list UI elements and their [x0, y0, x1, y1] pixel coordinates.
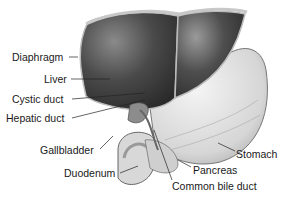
- label-diaphragm: Diaphragm: [12, 51, 63, 63]
- label-hepatic-duct: Hepatic duct: [6, 112, 64, 124]
- liver-left-lobe: [80, 13, 178, 110]
- label-duodenum: Duodenum: [64, 167, 115, 179]
- label-stomach: Stomach: [236, 148, 277, 160]
- label-pancreas: Pancreas: [193, 164, 237, 176]
- label-liver: Liver: [44, 73, 67, 85]
- gallbladder-shape: [128, 103, 148, 123]
- label-cystic-duct: Cystic duct: [12, 93, 63, 105]
- label-gallbladder: Gallbladder: [40, 144, 94, 156]
- label-common-bile-duct: Common bile duct: [172, 180, 257, 192]
